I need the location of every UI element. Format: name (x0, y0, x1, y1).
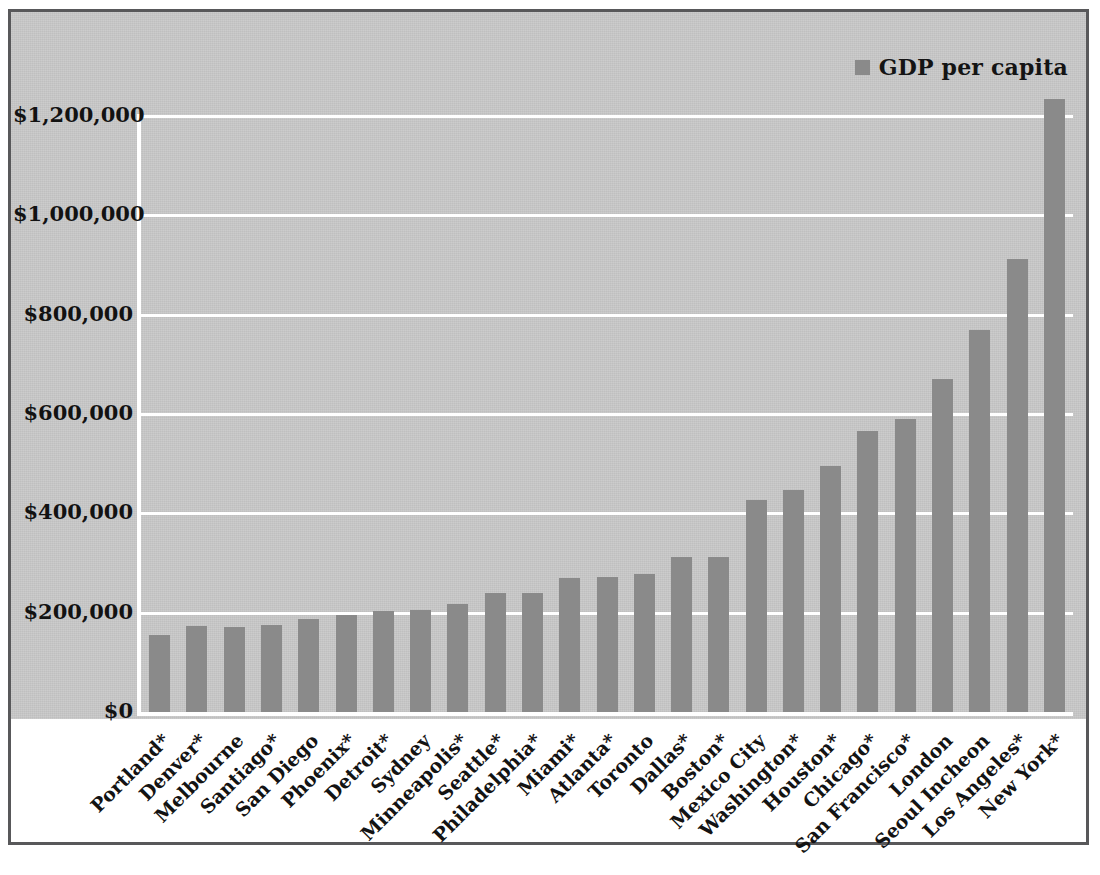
bar[interactable] (708, 557, 729, 712)
bar[interactable] (932, 379, 953, 712)
chart-frame: GDP per capita $1,200,000$1,000,000$800,… (8, 9, 1089, 845)
bar-slot (887, 116, 924, 712)
bar[interactable] (336, 615, 357, 712)
bar-slot (588, 116, 625, 712)
bar[interactable] (597, 577, 618, 712)
bar-slot (1036, 116, 1073, 712)
bar[interactable] (373, 611, 394, 712)
x-axis: Portland*Denver*MelbourneSantiago*San Di… (141, 719, 1073, 845)
bar-slot (365, 116, 402, 712)
bar-slot (514, 116, 551, 712)
bar-slot (327, 116, 364, 712)
bar-slot (700, 116, 737, 712)
bar[interactable] (1007, 259, 1028, 712)
bar-slot (402, 116, 439, 712)
bar[interactable] (447, 604, 468, 712)
bar[interactable] (857, 431, 878, 712)
y-axis-tick-label: $0 (13, 698, 133, 723)
plot-area (141, 116, 1073, 712)
bar[interactable] (485, 593, 506, 712)
legend-label-gdp-per-capita: GDP per capita (879, 54, 1068, 80)
bar[interactable] (149, 635, 170, 712)
bar[interactable] (820, 466, 841, 712)
bar-slot (663, 116, 700, 712)
bar-slot (253, 116, 290, 712)
bar[interactable] (559, 578, 580, 712)
bar-slot (924, 116, 961, 712)
bar-slot (216, 116, 253, 712)
y-axis-tick-label: $800,000 (13, 301, 133, 326)
bar-slot (439, 116, 476, 712)
bar[interactable] (634, 574, 655, 712)
y-axis-tick-label: $400,000 (13, 499, 133, 524)
bar[interactable] (298, 619, 319, 712)
y-axis: $1,200,000$1,000,000$800,000$600,000$400… (11, 12, 133, 848)
bar[interactable] (224, 627, 245, 712)
y-axis-tick-label: $200,000 (13, 599, 133, 624)
bar-slot (290, 116, 327, 712)
bar-slot (849, 116, 886, 712)
bar-series-gdp-per-capita (141, 116, 1073, 712)
bar[interactable] (671, 557, 692, 712)
bar-slot (961, 116, 998, 712)
bar[interactable] (746, 500, 767, 712)
bar[interactable] (969, 330, 990, 712)
bar-slot (477, 116, 514, 712)
bar-slot (626, 116, 663, 712)
bar[interactable] (522, 593, 543, 712)
bar[interactable] (895, 419, 916, 712)
bar[interactable] (261, 625, 282, 712)
bar-slot (551, 116, 588, 712)
y-axis-tick-label: $600,000 (13, 400, 133, 425)
bar-slot (738, 116, 775, 712)
bar[interactable] (783, 490, 804, 713)
bar-slot (775, 116, 812, 712)
bar[interactable] (1044, 99, 1065, 712)
bar-slot (141, 116, 178, 712)
y-axis-tick-label: $1,000,000 (13, 201, 133, 226)
legend-swatch-gdp-per-capita (855, 60, 870, 75)
bar[interactable] (186, 626, 207, 712)
bar-slot (998, 116, 1035, 712)
y-axis-tick-label: $1,200,000 (13, 102, 133, 127)
bar-slot (178, 116, 215, 712)
bar[interactable] (410, 610, 431, 712)
chart-legend: GDP per capita (855, 54, 1068, 80)
bar-slot (812, 116, 849, 712)
